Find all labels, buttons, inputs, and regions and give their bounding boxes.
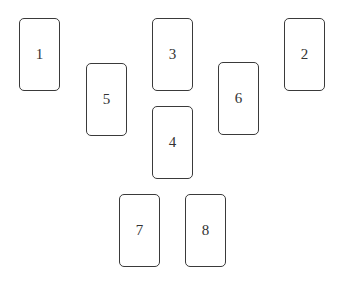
card-number: 4 bbox=[169, 134, 177, 151]
card-number: 7 bbox=[136, 222, 144, 239]
card-number: 1 bbox=[36, 46, 44, 63]
card-position-8: 8 bbox=[185, 194, 226, 267]
card-position-1: 1 bbox=[19, 18, 60, 91]
card-position-3: 3 bbox=[152, 18, 193, 91]
card-position-6: 6 bbox=[218, 62, 259, 135]
card-number: 5 bbox=[103, 91, 111, 108]
card-position-7: 7 bbox=[119, 194, 160, 267]
card-number: 3 bbox=[169, 46, 177, 63]
card-number: 2 bbox=[301, 46, 309, 63]
card-number: 6 bbox=[235, 90, 243, 107]
card-position-4: 4 bbox=[152, 106, 193, 179]
card-number: 8 bbox=[202, 222, 210, 239]
card-position-2: 2 bbox=[284, 18, 325, 91]
card-position-5: 5 bbox=[86, 63, 127, 136]
